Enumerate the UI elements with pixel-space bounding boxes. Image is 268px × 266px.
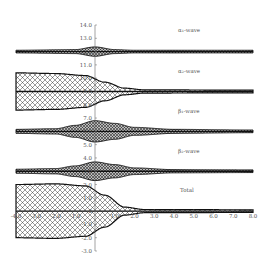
y-tick-label: 6.0 xyxy=(83,128,92,134)
x-tick-label: 4.0 xyxy=(170,213,179,219)
x-tick-label: 8.0 xyxy=(249,213,258,219)
y-tick-label: 1.0 xyxy=(83,195,92,201)
y-tick-label: -3.0 xyxy=(81,248,92,254)
alpha2-wave-label: α₂-wave xyxy=(178,68,200,74)
x-tick-label: 2.0 xyxy=(130,213,139,219)
y-tick-label: 10.0 xyxy=(80,75,93,81)
y-tick-label: 4.0 xyxy=(83,155,92,161)
x-tick-label: 7.0 xyxy=(229,213,238,219)
y-tick-label: 12.0 xyxy=(80,49,93,55)
x-tick-label: 6.0 xyxy=(209,213,218,219)
y-tick-label: -1.0 xyxy=(81,221,92,227)
x-tick-label: 3.0 xyxy=(150,213,159,219)
x-tick-label: -2.0 xyxy=(50,213,61,219)
y-tick-label: -2.0 xyxy=(81,235,92,241)
wave-envelope-chart: 14.013.012.011.010.09.08.07.06.05.04.03.… xyxy=(0,0,268,266)
total-label: Total xyxy=(180,187,194,193)
beta2-wave-label: β₂-wave xyxy=(178,148,200,155)
y-tick-label: 5.0 xyxy=(83,142,92,148)
x-tick-label: -4.0 xyxy=(11,213,22,219)
y-tick-label: 9.0 xyxy=(83,88,92,94)
y-tick-label: 2.0 xyxy=(83,182,92,188)
y-tick-label: 0 xyxy=(89,208,93,214)
alpha1-wave-label: α₁-wave xyxy=(178,27,200,33)
x-tick-label: -1.0 xyxy=(70,213,81,219)
y-tick-label: 13.0 xyxy=(80,35,93,41)
x-tick-label: -3.0 xyxy=(30,213,41,219)
y-tick-label: 8.0 xyxy=(83,102,92,108)
x-tick-label: 5.0 xyxy=(189,213,198,219)
y-tick-label: 3.0 xyxy=(83,168,92,174)
y-tick-label: 14.0 xyxy=(80,22,93,28)
beta1-wave-label: β₁-wave xyxy=(178,108,200,115)
y-tick-label: 7.0 xyxy=(83,115,92,121)
y-tick-label: 11.0 xyxy=(80,62,93,68)
x-tick-label: 1.0 xyxy=(110,213,119,219)
